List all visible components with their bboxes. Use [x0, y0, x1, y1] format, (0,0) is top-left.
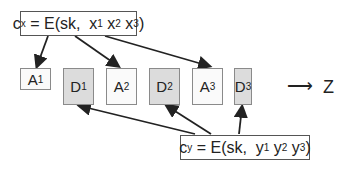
formula-cy: cy = E(sk, y1 y2 y3): [180, 135, 310, 160]
result-z: Z: [323, 77, 334, 98]
block-a2: A2: [106, 68, 137, 105]
block-a1: A1: [20, 68, 51, 90]
block-d1: D1: [63, 68, 94, 105]
block-a3: A3: [192, 68, 223, 105]
block-d3: D3: [234, 68, 252, 105]
right-arrow-icon: ⟶: [287, 75, 313, 97]
diagram: cx = E(sk, x1 x2 x3) A1 D1 A2 D2 A3 D3 ⟶…: [0, 0, 349, 170]
formula-cx: cx = E(sk, x1 x2 x3): [20, 11, 137, 36]
block-d2: D2: [149, 68, 180, 105]
